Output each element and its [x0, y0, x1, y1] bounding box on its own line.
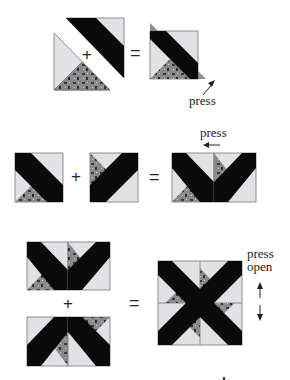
step3-equals-sign: = [129, 294, 140, 312]
step1-equals-sign: = [130, 44, 141, 62]
step1-press-label: press [189, 94, 216, 107]
step3-top-pair [27, 242, 110, 290]
step2-press-arrow-icon [203, 142, 220, 148]
step3-up-arrow-icon [257, 282, 263, 298]
step2-left-square [15, 153, 63, 202]
step1-plus-sign: + [82, 46, 92, 63]
step1-result-square [150, 23, 206, 79]
step3-open-label: open [247, 260, 272, 273]
step3-plus-sign: + [63, 295, 73, 312]
step2-result-pair [172, 153, 256, 202]
step2-press-label: press [200, 126, 227, 139]
step2-equals-sign: = [149, 168, 160, 186]
step3-down-arrow-icon [257, 305, 263, 321]
step2-plus-sign: + [71, 168, 81, 185]
quilt-diagram-canvas [0, 0, 290, 380]
step3-result-block [158, 261, 242, 345]
step3-bottom-pair [27, 317, 110, 366]
step2-right-square [90, 153, 138, 202]
